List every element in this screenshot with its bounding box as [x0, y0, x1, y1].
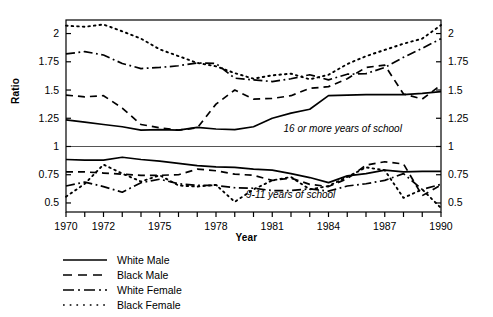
- plot-area: 0.50.50.750.75111.251.251.51.51.751.7522…: [0, 0, 493, 240]
- series-line-black-female: [66, 165, 441, 208]
- x-tick-label: 1984: [317, 220, 341, 232]
- y-tick-label-left: 1: [53, 140, 59, 152]
- legend-key-dashed: [62, 268, 108, 282]
- y-tick-label-right: 1.25: [448, 112, 469, 124]
- legend-key-solid: [62, 253, 108, 267]
- x-tick-label: 1975: [148, 220, 172, 232]
- y-tick-label-right: 0.5: [448, 196, 463, 208]
- legend-item: Black Female: [62, 297, 182, 312]
- y-tick-label-right: 2: [448, 27, 454, 39]
- legend-label-white-female: White Female: [117, 284, 182, 296]
- y-tick-label-left: 0.75: [39, 168, 60, 180]
- x-tick-label: 1990: [429, 220, 453, 232]
- panel-annotation: 9-11 years of school: [246, 189, 336, 200]
- legend-item: White Male: [62, 252, 182, 267]
- y-tick-label-right: 1: [448, 140, 454, 152]
- y-tick-label-left: 1.5: [44, 84, 59, 96]
- x-tick-label: 1970: [54, 220, 78, 232]
- y-tick-label-right: 0.75: [448, 168, 469, 180]
- chart-legend: White Male Black Male White Female Black…: [62, 252, 182, 312]
- y-tick-label-right: 1.75: [448, 55, 469, 67]
- series-line-black-male: [66, 65, 441, 130]
- y-tick-label-left: 1.25: [39, 112, 60, 124]
- x-tick-label: 1987: [373, 220, 397, 232]
- plot-frame: [66, 20, 441, 212]
- y-tick-label-left: 2: [53, 27, 59, 39]
- x-tick-label: 1972: [92, 220, 116, 232]
- series-line-black-female: [66, 25, 441, 80]
- series-line-white-female: [66, 39, 441, 82]
- legend-key-dashdot: [62, 283, 108, 297]
- chart-figure: Ratio Year 0.50.50.750.75111.251.251.51.…: [0, 0, 493, 317]
- legend-item: White Female: [62, 282, 182, 297]
- panel-annotation: 16 or more years of school: [284, 123, 403, 134]
- legend-label-white-male: White Male: [117, 254, 170, 266]
- y-tick-label-left: 1.75: [39, 55, 60, 67]
- y-tick-label-left: 0.5: [44, 196, 59, 208]
- legend-label-black-male: Black Male: [117, 269, 168, 281]
- legend-label-black-female: Black Female: [117, 299, 181, 311]
- y-tick-label-right: 1.5: [448, 84, 463, 96]
- legend-item: Black Male: [62, 267, 182, 282]
- x-tick-label: 1981: [261, 220, 285, 232]
- x-tick-label: 1978: [204, 220, 228, 232]
- legend-key-dotted: [62, 298, 108, 312]
